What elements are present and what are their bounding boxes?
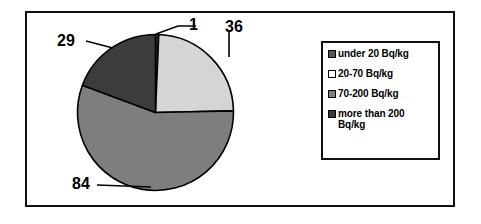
legend-label-more-than-200: more than 200 Bq/kg: [338, 108, 434, 130]
legend-item-more-than-200: more than 200 Bq/kg: [328, 108, 434, 130]
leader-line-more-than-200: [86, 41, 113, 48]
legend-label-70-200: 70-200 Bq/kg: [338, 88, 399, 99]
legend-swatch-icon-20-70: [328, 70, 336, 78]
slice-value-label-more-than-200: 29: [57, 33, 75, 49]
legend-item-20-70: 20-70 Bq/kg: [328, 68, 434, 79]
slice-value-label-under-20: 1: [189, 17, 198, 33]
legend-label-under-20: under 20 Bq/kg: [338, 48, 409, 59]
slice-value-label-20-70: 36: [225, 19, 243, 35]
legend-item-under-20: under 20 Bq/kg: [328, 48, 434, 59]
pie-slice-20-70: [156, 35, 234, 113]
legend-item-70-200: 70-200 Bq/kg: [328, 88, 434, 99]
slice-value-label-70-200: 84: [72, 176, 90, 192]
legend-label-20-70: 20-70 Bq/kg: [338, 68, 393, 79]
pie-chart-figure: 1 36 84 29 under 20 Bq/kg 20-70 Bq/kg 70…: [0, 0, 481, 224]
legend-swatch-icon-70-200: [328, 90, 336, 98]
legend-swatch-icon-more-than-200: [328, 110, 336, 118]
pie-plot-area: 1 36 84 29: [0, 0, 300, 224]
pie-slices-group: [77, 34, 233, 190]
pie-svg: [0, 0, 300, 224]
chart-legend: under 20 Bq/kg 20-70 Bq/kg 70-200 Bq/kg …: [321, 41, 440, 160]
legend-swatch-icon-under-20: [328, 50, 336, 58]
